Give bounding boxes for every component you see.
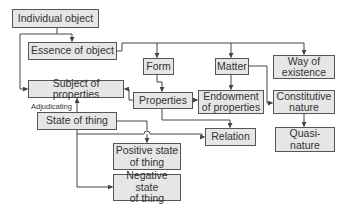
node-endowment-of-properties: Endowment of properties	[198, 90, 264, 114]
edge-properties-subject	[125, 89, 134, 100]
node-matter: Matter	[215, 58, 249, 75]
node-relation: Relation	[205, 128, 256, 146]
node-essence-of-object: Essence of object	[28, 42, 117, 60]
edge-state-relation	[77, 129, 205, 137]
node-state-of-thing: State of thing	[37, 112, 117, 130]
edge-individual-essence	[57, 27, 72, 42]
node-negative-state-of-thing: Negative state of thing	[113, 174, 181, 201]
node-subject-of-properties: Subject of properties	[28, 80, 124, 98]
node-properties: Properties	[133, 92, 193, 109]
node-form: Form	[143, 58, 174, 75]
concept-diagram: Individual object Essence of object Form…	[0, 0, 352, 213]
edge-essence-trunk	[117, 43, 304, 51]
node-constitutive-nature: Constitutive nature	[273, 90, 335, 114]
node-quasi-nature: Quasi- nature	[275, 127, 335, 152]
line-hop	[144, 131, 150, 134]
node-positive-state-of-thing: Positive state of thing	[113, 143, 181, 170]
edge-state-negative	[77, 134, 113, 187]
node-individual-object: Individual object	[12, 9, 99, 28]
label-adjudicating: Adjudicating	[31, 102, 72, 111]
node-way-of-existence: Way of existence	[273, 55, 335, 79]
edge-state-positive	[117, 121, 147, 143]
edge-form-properties	[157, 75, 162, 92]
